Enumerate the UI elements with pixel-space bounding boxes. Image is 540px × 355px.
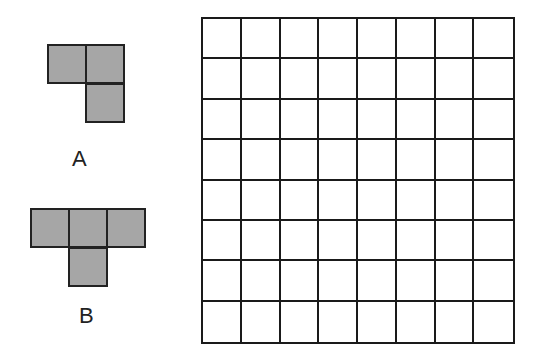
piece-square — [68, 247, 108, 287]
board-cell — [203, 221, 242, 261]
board-cell — [397, 59, 436, 99]
board-cell — [358, 302, 397, 342]
board-cell — [203, 302, 242, 342]
piece-square — [47, 44, 87, 84]
piece-square — [30, 208, 70, 248]
board-cell — [436, 100, 475, 140]
board-cell — [203, 181, 242, 221]
board-cell — [436, 221, 475, 261]
board-cell — [436, 140, 475, 180]
piece-a-label: A — [72, 146, 87, 172]
board-cell — [242, 19, 281, 59]
board-cell — [319, 59, 358, 99]
board-cell — [474, 181, 513, 221]
board-cell — [203, 59, 242, 99]
board-cell — [397, 302, 436, 342]
board-cell — [358, 100, 397, 140]
board-cell — [397, 181, 436, 221]
board-cell — [474, 261, 513, 301]
board-cell — [281, 261, 320, 301]
board-cell — [397, 100, 436, 140]
board-cell — [358, 181, 397, 221]
board-cell — [242, 140, 281, 180]
board-cell — [319, 100, 358, 140]
board-cell — [358, 19, 397, 59]
board-cell — [281, 140, 320, 180]
piece-b-label: B — [79, 303, 94, 329]
board-cell — [358, 261, 397, 301]
board-cell — [242, 261, 281, 301]
board-cell — [474, 59, 513, 99]
grid-board — [201, 17, 515, 344]
board-cell — [358, 140, 397, 180]
piece-square — [68, 208, 108, 248]
board-cell — [319, 140, 358, 180]
board-cell — [203, 140, 242, 180]
board-cell — [319, 181, 358, 221]
board-cell — [242, 59, 281, 99]
board-cell — [397, 19, 436, 59]
board-cell — [358, 221, 397, 261]
board-cell — [203, 261, 242, 301]
board-cell — [319, 19, 358, 59]
board-cell — [436, 59, 475, 99]
board-cell — [474, 221, 513, 261]
board-cell — [281, 221, 320, 261]
board-cell — [319, 221, 358, 261]
board-cell — [474, 302, 513, 342]
board-cell — [474, 100, 513, 140]
board-cell — [281, 181, 320, 221]
board-cell — [436, 19, 475, 59]
piece-square — [106, 208, 146, 248]
piece-square — [85, 83, 125, 123]
board-cell — [397, 261, 436, 301]
board-cell — [242, 100, 281, 140]
board-cell — [242, 221, 281, 261]
board-cell — [474, 19, 513, 59]
board-cell — [242, 181, 281, 221]
board-cell — [281, 302, 320, 342]
board-cell — [474, 140, 513, 180]
board-cell — [436, 261, 475, 301]
board-cell — [319, 261, 358, 301]
board-cell — [203, 19, 242, 59]
board-cell — [242, 302, 281, 342]
board-cell — [436, 181, 475, 221]
board-cell — [397, 140, 436, 180]
board-cell — [281, 59, 320, 99]
board-cell — [436, 302, 475, 342]
board-cell — [319, 302, 358, 342]
piece-square — [85, 44, 125, 84]
board-cell — [281, 19, 320, 59]
board-cell — [358, 59, 397, 99]
board-cell — [203, 100, 242, 140]
board-cell — [281, 100, 320, 140]
board-cell — [397, 221, 436, 261]
